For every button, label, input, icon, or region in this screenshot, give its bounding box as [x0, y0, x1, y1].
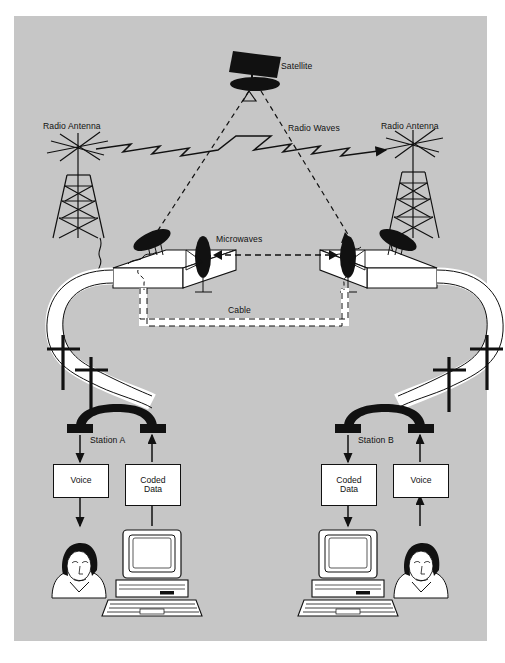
desktop-computer-icon [102, 530, 202, 616]
station-a-voice-box: Voice [53, 464, 109, 498]
station-b-voice-box: Voice [393, 464, 449, 498]
satellite-icon [229, 51, 281, 91]
satellite-uplink-left [151, 91, 249, 241]
radio-antenna-left-label: Radio Antenna [43, 122, 101, 132]
figure-root: Satellite Radio Antenna Radio Antenna Ra… [0, 0, 505, 663]
radio-waves-label: Radio Waves [288, 124, 340, 134]
station-b-label: Station B [358, 436, 394, 446]
station-a-coded-data-box: Coded Data [125, 464, 181, 506]
person-head-icon [394, 543, 448, 598]
radio-antenna-right-label: Radio Antenna [381, 122, 439, 132]
cable-label: Cable [228, 306, 251, 316]
person-head-icon [52, 543, 106, 598]
ground-station-building-icon [320, 236, 437, 288]
satellite-link-lines [151, 91, 352, 241]
coded-data-line-2: Data [144, 485, 162, 494]
telephone-handset-icon [67, 404, 166, 433]
satellite-downlink-right [261, 91, 352, 241]
coded-data-line-2: Data [340, 485, 358, 494]
radio-antenna-tower-icon [382, 129, 443, 238]
telephone-handset-icon [335, 404, 434, 433]
station-b-coded-data-box: Coded Data [321, 464, 377, 506]
diagram-canvas [0, 0, 505, 663]
radio-waves-link [96, 136, 386, 156]
desktop-computer-icon [298, 530, 398, 616]
station-a-label: Station A [90, 436, 125, 446]
satellite-link-arrowheads [151, 91, 352, 243]
microwaves-label: Microwaves [216, 235, 262, 245]
satellite-label: Satellite [281, 62, 312, 72]
